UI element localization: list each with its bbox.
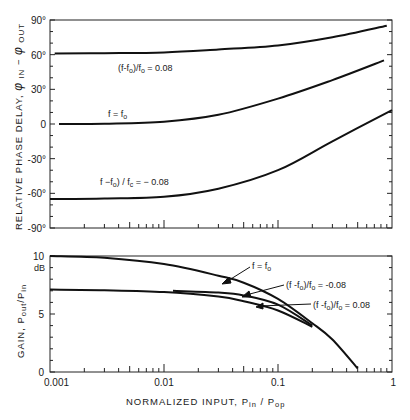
phase-y-tick-labels: 90°60°30°0-30°-60°-90° [28,15,47,234]
gain-x-tick-label: 1 [390,377,396,388]
gain-y-axis-title: GAIN, Pout/Pin [15,284,28,358]
gain-x-tick-label: 0.01 [154,377,174,388]
phase-y-tick-label: 30° [31,84,46,95]
phase-gain-chart: 90°60°30°0-30°-60°-90° RELATIVE PHASE DE… [0,0,410,420]
phase-y-tick-label: -90° [28,223,46,234]
gain-plot-ticks [50,256,392,372]
gain-tick-labels: 10500.0010.010.11 [33,251,397,388]
phase-y-tick-label: 0 [40,119,46,130]
gain-x-axis-title: NORMALIZED INPUT, Pin / Pop [126,396,285,409]
arrow-minus-head [242,291,251,297]
gain-curves [50,256,358,369]
gain-unit-label: dB [34,263,45,273]
phase-y-tick-label: -30° [28,154,46,165]
phase-y-axis-title: RELATIVE PHASE DELAY, φ IN − φ OUT [11,23,26,230]
phase-y-tick-label: 90° [31,15,46,26]
phase-label-plus-0.08: (f-fo)/fo = 0.08 [118,63,173,74]
phase-plot: 90°60°30°0-30°-60°-90° RELATIVE PHASE DE… [11,15,392,234]
gain-curve-0 [50,256,358,369]
phase-label-center: f = fo [108,109,127,120]
phase-curve-0 [55,26,387,54]
gain-label-minus-0.08: (f -fo)/fo = -0.08 [286,280,346,291]
phase-y-tick-label: -60° [28,188,46,199]
gain-x-tick-label: 0.1 [271,377,285,388]
phase-curves [50,26,392,199]
gain-y-tick-label: 10 [33,251,45,262]
gain-y-tick-label: 5 [38,309,44,320]
gain-x-tick-label: 0.001 [44,377,69,388]
gain-plot: 10500.0010.010.11 dB GAIN, Pout/Pin NORM… [15,251,396,409]
gain-label-center: f = fo [252,261,271,272]
gain-label-plus-0.08: (f -fo)/fo = 0.08 [313,300,370,311]
gain-plot-frame [50,256,392,372]
phase-y-tick-label: 60° [31,50,46,61]
phase-label-minus-0.08: f −fo) / fc = − 0.08 [100,177,169,188]
